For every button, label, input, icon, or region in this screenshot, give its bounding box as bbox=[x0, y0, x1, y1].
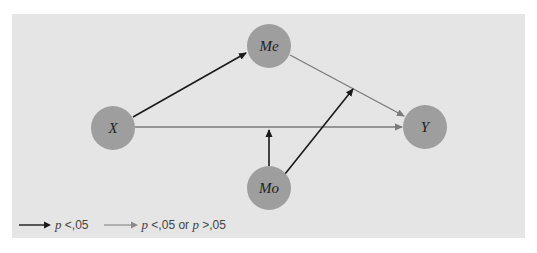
node-y: Y bbox=[403, 105, 447, 149]
path-diagram: X Me Y Mo bbox=[0, 0, 537, 253]
node-x-label: X bbox=[107, 120, 118, 136]
edge-me-to-y bbox=[290, 55, 404, 116]
node-me: Me bbox=[247, 24, 291, 68]
legend-item-significant: p <,05 bbox=[18, 217, 89, 233]
gray-arrow-icon bbox=[103, 220, 139, 230]
black-arrow-icon bbox=[18, 220, 52, 230]
legend: p <,05 p <,05 or p >,05 bbox=[18, 218, 240, 232]
legend-threshold: <,05 bbox=[62, 218, 89, 232]
legend-threshold: >,05 bbox=[199, 218, 226, 232]
node-mo: Mo bbox=[247, 166, 291, 210]
edge-mo-to-mey-path bbox=[285, 89, 353, 174]
legend-item-mixed: p <,05 or p >,05 bbox=[103, 217, 226, 233]
node-x: X bbox=[91, 106, 135, 150]
node-me-label: Me bbox=[258, 38, 278, 54]
edge-x-to-me bbox=[133, 53, 246, 117]
node-mo-label: Mo bbox=[258, 180, 279, 196]
legend-threshold: <,05 or bbox=[148, 218, 192, 232]
